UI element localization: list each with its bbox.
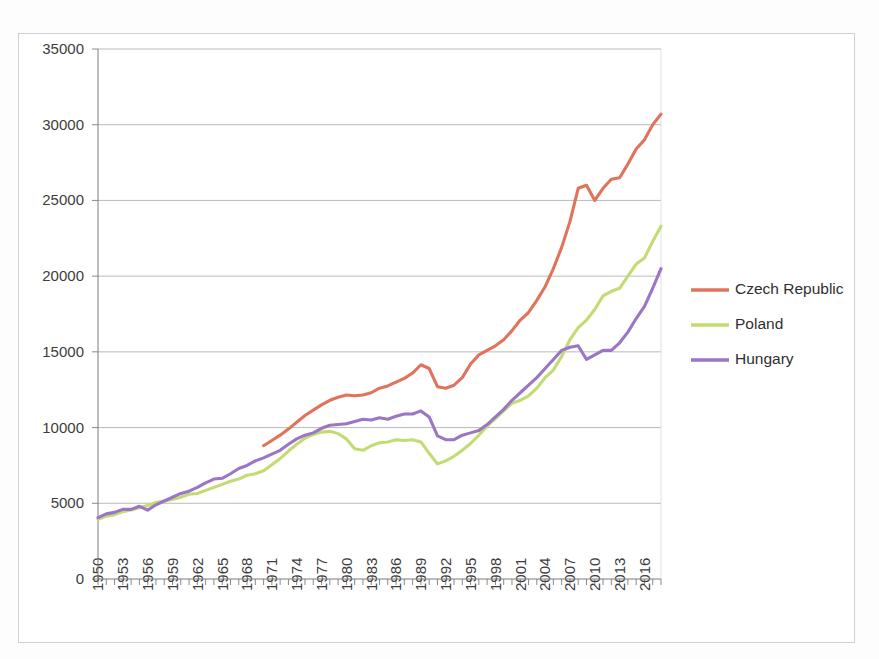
x-axis-tick-label: 1956	[139, 558, 156, 591]
x-axis-tick-label: 1995	[462, 558, 479, 591]
x-axis-tick-label: 1977	[313, 558, 330, 591]
x-axis-tick-label: 1983	[363, 558, 380, 591]
y-axis-tick-label: 5000	[51, 494, 84, 511]
x-axis-tick-label: 2013	[611, 558, 628, 591]
x-axis-tick-label: 1974	[288, 558, 305, 591]
y-axis-ticks: 35000300002500020000150001000050000	[42, 40, 98, 587]
page-background: 35000300002500020000150001000050000 1950…	[0, 0, 879, 659]
series-group	[98, 114, 661, 519]
x-axis-tick-label: 1965	[214, 558, 231, 591]
y-axis-tick-label: 10000	[42, 419, 84, 436]
x-axis-ticks: 1950195319561959196219651968197119741977…	[89, 558, 661, 591]
x-axis-tick-label: 2016	[636, 558, 653, 591]
x-axis-tick-label: 2004	[536, 558, 553, 591]
y-axis-tick-label: 30000	[42, 116, 84, 133]
x-axis-tick-label: 1959	[164, 558, 181, 591]
gridlines-group	[98, 49, 661, 503]
x-axis-tick-label: 1968	[238, 558, 255, 591]
y-axis-tick-label: 0	[76, 570, 84, 587]
x-axis-tick-label: 1980	[338, 558, 355, 591]
legend-label[interactable]: Czech Republic	[735, 280, 844, 297]
x-axis-tick-label: 1962	[189, 558, 206, 591]
y-axis-tick-label: 15000	[42, 343, 84, 360]
x-axis-tick-label: 2007	[561, 558, 578, 591]
chart-frame: 35000300002500020000150001000050000 1950…	[18, 33, 855, 643]
legend-label[interactable]: Poland	[735, 315, 783, 332]
y-axis-tick-label: 35000	[42, 40, 84, 57]
x-axis-tick-label: 1971	[263, 558, 280, 591]
x-axis-tick-label: 2010	[586, 558, 603, 591]
x-axis-tick-label: 1992	[437, 558, 454, 591]
legend-label[interactable]: Hungary	[735, 350, 794, 367]
x-axis-tick-label: 1953	[114, 558, 131, 591]
axes-group	[98, 49, 661, 579]
y-axis-tick-label: 20000	[42, 267, 84, 284]
y-axis-tick-label: 25000	[42, 191, 84, 208]
chart-legend: Czech RepublicPolandHungary	[691, 280, 844, 367]
x-axis-tick-label: 2001	[512, 558, 529, 591]
series-line-czech-republic	[264, 114, 661, 446]
x-axis-tick-label: 1989	[412, 558, 429, 591]
x-axis-tick-label: 1986	[387, 558, 404, 591]
series-line-poland	[98, 226, 661, 519]
series-line-hungary	[98, 269, 661, 518]
line-chart: 35000300002500020000150001000050000 1950…	[19, 34, 854, 642]
x-axis-tick-label: 1998	[487, 558, 504, 591]
